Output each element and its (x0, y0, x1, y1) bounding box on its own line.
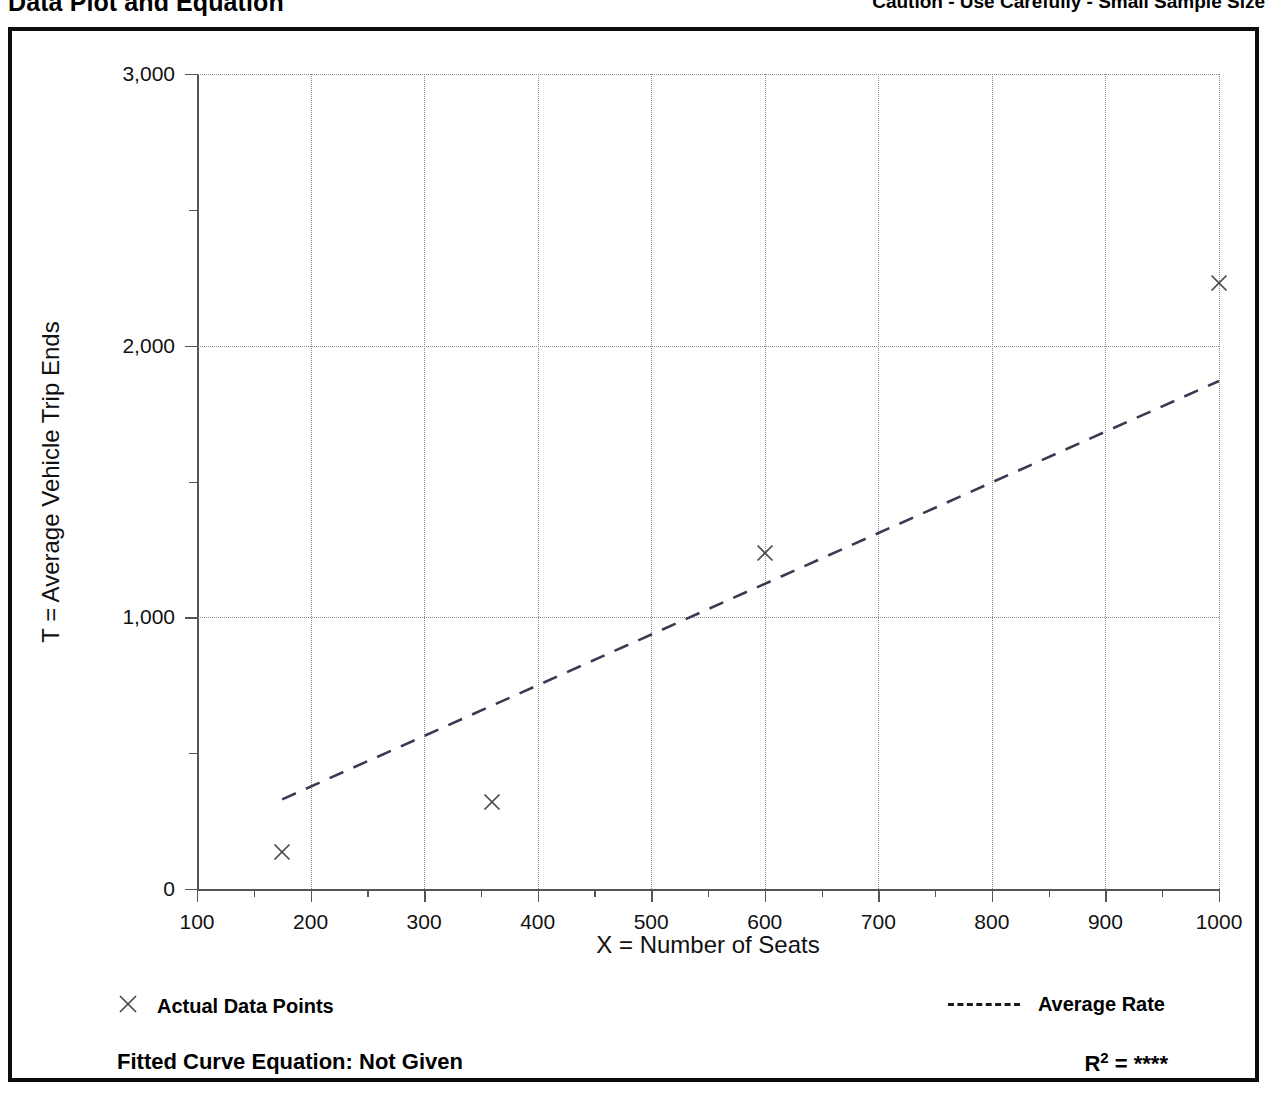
average-rate-trendline (197, 74, 1219, 889)
x-tick-minor (822, 889, 823, 897)
x-tick-minor (708, 889, 709, 897)
y-axis-title-text: T = Average Vehicle Trip Ends (37, 321, 65, 642)
x-tick-minor (481, 889, 482, 897)
trendline-segment (282, 381, 1219, 799)
y-tick-major (185, 889, 198, 890)
r-squared-number: = **** (1115, 1051, 1168, 1076)
y-tick-label: 3,000 (122, 62, 175, 86)
legend-item-average-rate: Average Rate (948, 993, 1165, 1016)
gridline-vertical (1219, 74, 1221, 889)
data-point-marker (482, 792, 502, 812)
x-tick-major (651, 889, 652, 902)
dashed-line-icon (948, 1003, 1020, 1006)
x-tick-minor (1049, 889, 1050, 897)
data-point-marker (1209, 273, 1229, 293)
fitted-curve-equation: Fitted Curve Equation: Not Given (117, 1049, 463, 1075)
y-tick-label: 2,000 (122, 334, 175, 358)
legend-item-data-points: Actual Data Points (117, 993, 334, 1019)
x-tick-major (538, 889, 539, 902)
legend-label-average-rate: Average Rate (1038, 993, 1165, 1016)
x-tick-major (1219, 889, 1220, 902)
equation-footer: Fitted Curve Equation: Not Given R2 = **… (12, 1049, 1263, 1093)
plot-region: 1002003004005006007008009001000 01,0002,… (197, 74, 1219, 889)
x-tick-minor (594, 889, 595, 897)
x-tick-major (1105, 889, 1106, 902)
data-point-marker (755, 543, 775, 563)
page-title: Data Plot and Equation (8, 0, 284, 17)
caution-note: Caution - Use Carefully - Small Sample S… (872, 0, 1265, 13)
chart-legend: Actual Data Points Average Rate (12, 993, 1263, 1033)
r-squared-value: R2 = **** (1084, 1049, 1168, 1077)
data-point-marker (272, 842, 292, 862)
r-squared-exponent: 2 (1100, 1049, 1108, 1066)
x-tick-minor (935, 889, 936, 897)
r-squared-prefix: R (1084, 1051, 1100, 1076)
x-tick-minor (367, 889, 368, 897)
x-tick-major (311, 889, 312, 902)
x-tick-minor (1162, 889, 1163, 897)
x-tick-major (424, 889, 425, 902)
x-tick-major (765, 889, 766, 902)
x-axis-title: X = Number of Seats (197, 931, 1219, 959)
x-cross-marker-icon (117, 993, 139, 1019)
x-tick-minor (254, 889, 255, 897)
y-axis-title: T = Average Vehicle Trip Ends (34, 74, 68, 889)
y-tick-label: 0 (163, 877, 175, 901)
page-header: Data Plot and Equation Caution - Use Car… (0, 0, 1275, 22)
legend-label-data-points: Actual Data Points (157, 995, 334, 1018)
x-tick-major (992, 889, 993, 902)
y-tick-label: 1,000 (122, 605, 175, 629)
x-tick-major (197, 889, 198, 902)
chart-area: T = Average Vehicle Trip Ends 1002003004… (12, 31, 1263, 1086)
x-tick-major (878, 889, 879, 902)
chart-card-frame: T = Average Vehicle Trip Ends 1002003004… (8, 27, 1259, 1082)
